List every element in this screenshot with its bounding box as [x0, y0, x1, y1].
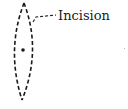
incision-diagram: Incision — [0, 0, 128, 109]
speck-mark — [124, 48, 125, 49]
lesion-dot-icon — [21, 48, 25, 52]
leader-line — [33, 15, 56, 22]
incision-label: Incision — [58, 8, 110, 23]
